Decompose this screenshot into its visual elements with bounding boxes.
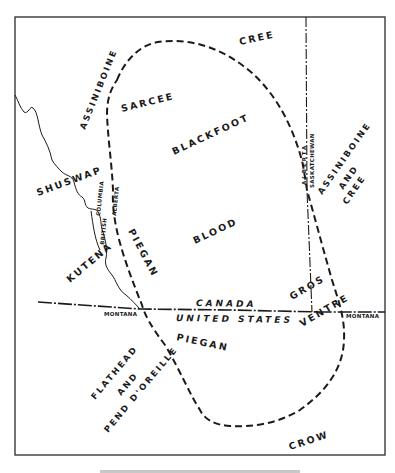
label-alberta-east: ALBERTA [301, 144, 307, 185]
label-canada: CANADA [196, 298, 257, 309]
label-crow: CROW [287, 429, 330, 452]
tribal-territory-map: CREE ASSINIBOINE SARCEE BLACKFOOT SHUSWA… [0, 0, 395, 473]
label-sarcee: SARCEE [120, 90, 176, 114]
label-montana-east: MONTANA [346, 313, 380, 319]
label-blood: BLOOD [191, 216, 239, 246]
label-flathead-pend-oreille-3: PEND D'OREILLE [102, 344, 180, 434]
label-blackfoot: BLACKFOOT [170, 111, 251, 156]
label-cree-north: CREE [238, 29, 276, 47]
label-montana-west: MONTANA [104, 311, 138, 317]
label-piegan-south: PIEGAN [176, 331, 230, 353]
label-piegan-north: PIEGAN [126, 227, 161, 279]
label-kutenai: KUTENA [64, 240, 114, 285]
label-shuswap: SHUSWAP [35, 164, 104, 198]
label-british-columbia-2: COLUMBIA [95, 180, 105, 216]
label-united-states: UNITED STATES [176, 313, 293, 325]
label-saskatchewan: SASKATCHEWAN [309, 133, 315, 188]
label-gros-ventre-1: GROS [288, 273, 327, 302]
